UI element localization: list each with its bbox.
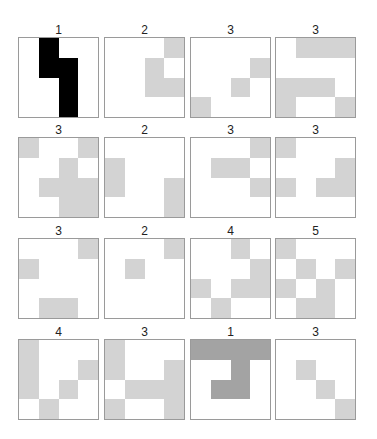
filled-cell	[276, 97, 296, 117]
filled-cell	[78, 360, 98, 380]
panel-label: 3	[18, 224, 99, 238]
filled-cell	[191, 97, 211, 117]
filled-cell	[145, 380, 165, 400]
panel-label: 3	[190, 123, 271, 137]
filled-cell	[296, 259, 316, 279]
panel-label: 3	[104, 325, 185, 339]
filled-cell	[105, 340, 125, 360]
filled-cell	[335, 259, 355, 279]
filled-cell	[231, 279, 251, 299]
filled-cell	[164, 399, 184, 419]
filled-cell	[211, 298, 231, 318]
filled-cell	[145, 78, 165, 98]
filled-cell	[164, 380, 184, 400]
filled-cell	[59, 158, 79, 178]
panel-box	[275, 37, 356, 118]
filled-cell	[19, 138, 39, 158]
panel-label: 3	[275, 123, 356, 137]
panel-label: 3	[190, 23, 271, 37]
filled-cell	[39, 58, 59, 78]
filled-cell	[276, 78, 296, 98]
panel-label: 3	[275, 325, 356, 339]
filled-cell	[250, 340, 270, 360]
filled-cell	[78, 239, 98, 259]
filled-cell	[125, 259, 145, 279]
filled-cell	[316, 298, 336, 318]
panel-label: 2	[104, 23, 185, 37]
filled-cell	[39, 38, 59, 58]
panel-box	[104, 37, 185, 118]
panel-box	[190, 238, 271, 319]
filled-cell	[316, 380, 336, 400]
filled-cell	[316, 178, 336, 198]
panel-box	[18, 137, 99, 218]
filled-cell	[39, 178, 59, 198]
filled-cell	[105, 158, 125, 178]
filled-cell	[316, 279, 336, 299]
filled-cell	[296, 298, 316, 318]
filled-cell	[19, 340, 39, 360]
filled-cell	[39, 399, 59, 419]
filled-cell	[316, 38, 336, 58]
filled-cell	[164, 178, 184, 198]
filled-cell	[59, 58, 79, 78]
filled-cell	[78, 178, 98, 198]
filled-cell	[276, 138, 296, 158]
filled-cell	[145, 58, 165, 78]
panel-label: 4	[18, 325, 99, 339]
filled-cell	[164, 78, 184, 98]
filled-cell	[78, 138, 98, 158]
filled-cell	[164, 38, 184, 58]
filled-cell	[231, 380, 251, 400]
filled-cell	[250, 259, 270, 279]
filled-cell	[164, 197, 184, 217]
filled-cell	[78, 197, 98, 217]
panel-label: 5	[275, 224, 356, 238]
panel-label: 3	[18, 123, 99, 137]
filled-cell	[231, 239, 251, 259]
panel-box	[275, 339, 356, 420]
filled-cell	[19, 360, 39, 380]
filled-cell	[250, 58, 270, 78]
filled-cell	[250, 178, 270, 198]
filled-cell	[211, 340, 231, 360]
filled-cell	[250, 138, 270, 158]
filled-cell	[191, 279, 211, 299]
filled-cell	[164, 239, 184, 259]
filled-cell	[59, 78, 79, 98]
filled-cell	[335, 178, 355, 198]
filled-cell	[164, 360, 184, 380]
panel-box	[18, 339, 99, 420]
panel-box	[275, 238, 356, 319]
filled-cell	[59, 178, 79, 198]
filled-cell	[191, 340, 211, 360]
filled-cell	[105, 178, 125, 198]
filled-cell	[19, 259, 39, 279]
panel-box	[18, 238, 99, 319]
panel-label: 3	[275, 23, 356, 37]
filled-cell	[316, 78, 336, 98]
filled-cell	[105, 360, 125, 380]
panel-box	[104, 137, 185, 218]
filled-cell	[105, 399, 125, 419]
panel-label: 1	[18, 23, 99, 37]
filled-cell	[296, 78, 316, 98]
filled-cell	[296, 360, 316, 380]
filled-cell	[231, 360, 251, 380]
panel-box	[104, 339, 185, 420]
filled-cell	[39, 298, 59, 318]
panel-box	[275, 137, 356, 218]
filled-cell	[231, 78, 251, 98]
panel-box	[190, 37, 271, 118]
filled-cell	[231, 158, 251, 178]
filled-cell	[211, 158, 231, 178]
filled-cell	[59, 97, 79, 117]
filled-cell	[335, 97, 355, 117]
panel-box	[18, 37, 99, 118]
panel-label: 1	[190, 325, 271, 339]
filled-cell	[335, 399, 355, 419]
filled-cell	[19, 380, 39, 400]
panel-label: 2	[104, 224, 185, 238]
filled-cell	[276, 279, 296, 299]
filled-cell	[59, 197, 79, 217]
